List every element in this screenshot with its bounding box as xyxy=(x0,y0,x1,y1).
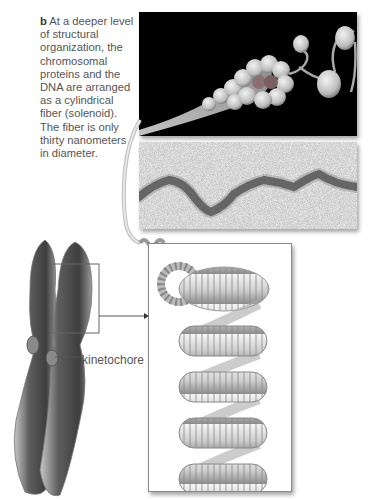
kinetochore-label: kinetochore xyxy=(82,353,144,367)
chromosome-illustration xyxy=(0,0,368,500)
kinetochore-left-icon xyxy=(27,336,39,354)
kinetochore-right-icon xyxy=(46,350,58,366)
